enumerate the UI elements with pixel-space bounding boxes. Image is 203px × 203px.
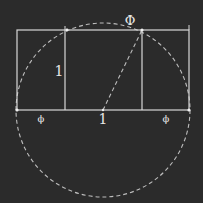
diagram-graphic: [0, 0, 203, 203]
dashed-diagonal: [103, 30, 142, 110]
vertex-dot: [140, 28, 143, 31]
label-bottom-middle-one: 1: [99, 112, 108, 126]
vertex-dot: [15, 108, 18, 111]
outer-rectangle: [17, 30, 189, 110]
label-side-one: 1: [55, 64, 64, 78]
label-bottom-left-phi: ϕ: [38, 114, 45, 124]
golden-ratio-diagram: Φ 1 ϕ 1 ϕ: [0, 0, 203, 203]
vertex-dot: [187, 108, 190, 111]
label-top-phi: Φ: [125, 14, 136, 27]
vertex-dot: [66, 29, 69, 32]
label-bottom-right-phi: ϕ: [163, 114, 170, 124]
